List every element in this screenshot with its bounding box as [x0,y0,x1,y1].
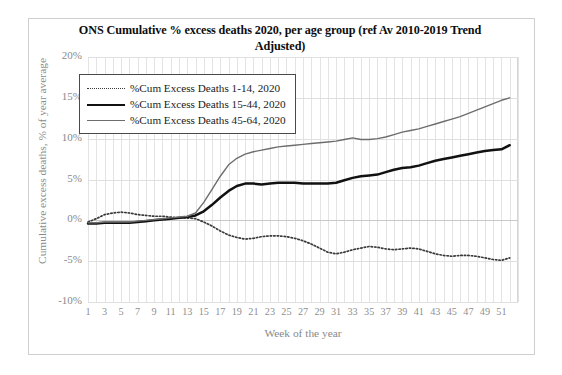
legend-line-swatch [87,82,125,94]
x-axis-tick-label: 1 [85,306,90,317]
x-axis-tick-label: 47 [463,306,473,317]
x-axis-tick-label: 17 [215,306,225,317]
x-axis-tick-label: 9 [152,306,157,317]
x-axis-tick-labels: 1357911131517192123252729313335373941434… [0,306,562,322]
chart-legend: %Cum Excess Deaths 1-14, 2020%Cum Excess… [79,74,296,134]
x-axis-tick-label: 19 [232,306,242,317]
x-axis-tick-label: 3 [102,306,107,317]
x-axis-tick-label: 35 [364,306,374,317]
series-line-2 [88,145,510,223]
x-axis-tick-label: 13 [182,306,192,317]
y-axis-title: Cumulative excess deaths, % of year aver… [36,31,48,291]
y-axis-tick-label: 20% [62,49,82,61]
chart-title: ONS Cumulative % excess deaths 2020, per… [60,22,500,54]
x-axis-tick-label: 39 [397,306,407,317]
x-axis-tick-label: 31 [331,306,341,317]
x-axis-tick-label: 25 [281,306,291,317]
legend-item-label: %Cum Excess Deaths 1-14, 2020 [130,82,280,94]
x-axis-tick-label: 49 [480,306,490,317]
gridline-vertical [518,57,519,302]
x-axis-tick-label: 21 [248,306,258,317]
x-axis-tick-label: 29 [314,306,324,317]
gridline-horizontal [88,302,518,303]
legend-item-3[interactable]: %Cum Excess Deaths 45-64, 2020 [87,112,286,128]
legend-item-label: %Cum Excess Deaths 15-44, 2020 [130,98,286,110]
x-axis-tick-label: 11 [166,306,176,317]
legend-item-2[interactable]: %Cum Excess Deaths 15-44, 2020 [87,96,286,112]
legend-item-1[interactable]: %Cum Excess Deaths 1-14, 2020 [87,80,286,96]
x-axis-tick-label: 43 [430,306,440,317]
y-axis-tick-label: -10% [58,294,82,306]
x-axis-tick-label: 15 [199,306,209,317]
x-axis-tick-label: 41 [414,306,424,317]
x-axis-title: Week of the year [88,327,518,339]
legend-item-label: %Cum Excess Deaths 45-64, 2020 [130,114,286,126]
y-axis-tick-label: 5% [67,172,82,184]
legend-line-swatch [87,114,125,126]
x-axis-tick-label: 27 [298,306,308,317]
y-axis-tick-label: -5% [64,253,82,265]
x-axis-tick-label: 51 [496,306,506,317]
x-axis-tick-label: 23 [265,306,275,317]
x-axis-tick-label: 33 [348,306,358,317]
y-axis-tick-label: 0% [67,212,82,224]
x-axis-tick-label: 5 [119,306,124,317]
x-axis-tick-label: 37 [381,306,391,317]
x-axis-tick-label: 45 [447,306,457,317]
x-axis-tick-label: 7 [135,306,140,317]
legend-line-swatch [87,98,125,110]
